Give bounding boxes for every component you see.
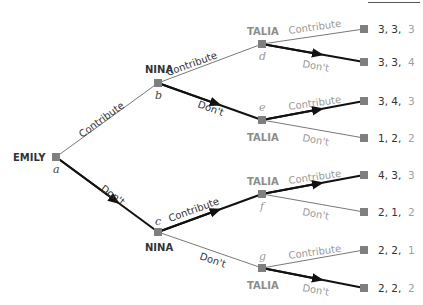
node-letter-f: f <box>259 200 266 213</box>
node-e <box>258 116 266 124</box>
edge-label-c-g: Don't <box>198 250 227 269</box>
edge-label-b-e: Don't <box>196 99 225 119</box>
svg-text:2, 2,: 2, 2, <box>378 244 401 256</box>
svg-text:3, 4,: 3, 4, <box>378 95 401 107</box>
node-a <box>52 153 60 161</box>
player-label-emily: EMILY <box>13 152 46 163</box>
node-c <box>154 228 162 236</box>
edge-label-e-t4: Don't <box>302 132 330 148</box>
node-letter-b: b <box>155 89 162 102</box>
node-letter-c: c <box>155 215 161 228</box>
payoff-6: 2, 1, 2 <box>378 206 415 218</box>
edge-label-a-c: Don't <box>99 183 127 208</box>
svg-text:3: 3 <box>408 23 415 35</box>
node-letter-g: g <box>259 250 266 263</box>
svg-text:2: 2 <box>408 282 415 294</box>
svg-text:2: 2 <box>408 132 415 144</box>
node-letter-d: d <box>259 50 266 63</box>
svg-text:1: 1 <box>408 244 415 256</box>
payoff-4: 1, 2, 2 <box>378 132 415 144</box>
terminal-node-5 <box>360 171 368 179</box>
svg-text:3, 3,: 3, 3, <box>378 56 401 68</box>
svg-text:1, 2,: 1, 2, <box>378 132 401 144</box>
svg-text:4, 3,: 4, 3, <box>378 169 401 181</box>
terminal-node-6 <box>360 208 368 216</box>
payoff-8: 2, 2, 2 <box>378 282 415 294</box>
node-letter-e: e <box>259 101 266 114</box>
edge-label-d-t2: Don't <box>302 58 330 74</box>
payoff-5: 4, 3, 3 <box>378 169 415 181</box>
edge-label-g-t7: Contribute <box>288 243 342 261</box>
svg-text:3: 3 <box>408 169 415 181</box>
node-b <box>154 79 162 87</box>
edge-label-f-t6: Don't <box>302 206 330 222</box>
payoff-2: 3, 3, 4 <box>378 56 415 68</box>
node-f <box>258 190 266 198</box>
game-tree: EMILY NINA NINA TALIA TALIA TALIA TALIA … <box>0 0 423 305</box>
svg-text:2, 2,: 2, 2, <box>378 282 401 294</box>
svg-text:3, 3,: 3, 3, <box>378 23 401 35</box>
payoff-3: 3, 4, 3 <box>378 95 415 107</box>
payoff-7: 2, 2, 1 <box>378 244 415 256</box>
node-letter-a: a <box>53 163 60 176</box>
svg-text:3: 3 <box>408 95 415 107</box>
terminal-node-1 <box>360 25 368 33</box>
node-d <box>258 40 266 48</box>
payoff-1: 3, 3, 3 <box>378 23 415 35</box>
edge-label-g-t8: Don't <box>302 282 330 298</box>
svg-text:4: 4 <box>408 56 415 68</box>
player-label-talia-d: TALIA <box>247 26 279 37</box>
terminal-node-3 <box>360 97 368 105</box>
edge-label-a-b: Contribute <box>77 100 126 140</box>
svg-text:2: 2 <box>408 206 415 218</box>
terminal-node-8 <box>360 284 368 292</box>
player-label-nina-bottom: NINA <box>145 242 173 253</box>
terminal-node-2 <box>360 58 368 66</box>
terminal-node-7 <box>360 246 368 254</box>
node-g <box>258 264 266 272</box>
player-label-talia-g: TALIA <box>247 280 279 291</box>
player-label-talia-e: TALIA <box>247 132 279 143</box>
svg-text:2, 1,: 2, 1, <box>378 206 401 218</box>
player-label-talia-f: TALIA <box>247 176 279 187</box>
terminal-node-4 <box>360 134 368 142</box>
